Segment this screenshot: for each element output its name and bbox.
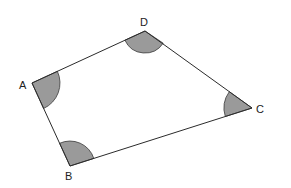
quadrilateral-diagram: A D C B (0, 0, 291, 188)
vertex-label-d: D (140, 16, 148, 28)
vertex-label-c: C (256, 103, 264, 115)
angle-d-sector (125, 31, 163, 53)
vertex-label-a: A (19, 79, 27, 91)
vertex-label-b: B (65, 170, 72, 182)
